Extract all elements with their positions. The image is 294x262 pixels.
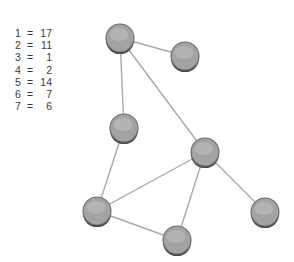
node-link-diagram: [0, 0, 294, 262]
graph-node[interactable]: [110, 114, 138, 144]
node-highlight: [175, 46, 194, 59]
nodes-layer: [83, 24, 279, 256]
graph-node[interactable]: [163, 226, 191, 256]
graph-canvas: 1=172=113=14=25=146=77=6: [0, 0, 294, 262]
node-highlight: [87, 201, 106, 214]
graph-node[interactable]: [106, 24, 134, 54]
node-highlight: [114, 118, 133, 131]
node-highlight: [255, 202, 274, 215]
node-highlight: [195, 142, 214, 155]
node-highlight: [167, 230, 186, 243]
graph-node[interactable]: [171, 42, 199, 72]
graph-node[interactable]: [191, 138, 219, 168]
node-highlight: [110, 28, 129, 41]
graph-node[interactable]: [83, 197, 111, 227]
graph-node[interactable]: [251, 198, 279, 228]
